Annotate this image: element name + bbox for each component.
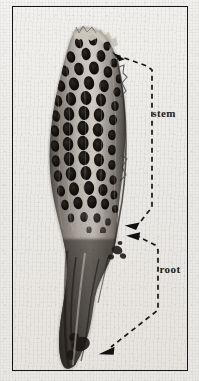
specimen-image (13, 7, 187, 370)
specimen-illustration (13, 7, 187, 370)
figure-root: stem root (0, 0, 199, 381)
plate-interior (13, 7, 187, 370)
